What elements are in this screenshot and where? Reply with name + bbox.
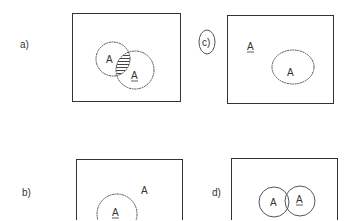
diagram-b: b) A A [22, 160, 183, 221]
set-a-complement-label: A [247, 41, 254, 52]
universal-set-box [232, 159, 338, 221]
diagram-d: d) A A [212, 159, 338, 221]
set-a-label: A [141, 185, 148, 196]
set-a-label: A [287, 67, 294, 78]
set-a-label: A [106, 54, 113, 65]
diagram-c-label: c) [202, 37, 210, 48]
universal-set-box [77, 160, 183, 221]
venn-diagram-canvas: a) A A c) A A b) A A d) A A [0, 0, 353, 220]
diagram-c: c) A A [199, 16, 334, 104]
diagram-a: a) A A [20, 14, 181, 102]
diagram-a-label: a) [20, 39, 29, 50]
set-a-label: A [270, 197, 277, 208]
universal-set-box [228, 16, 334, 104]
diagram-d-label: d) [212, 187, 221, 198]
set-a-complement-label: A [296, 194, 303, 205]
set-a-complement-label: A [112, 207, 119, 218]
set-a-complement-label: A [131, 70, 138, 81]
diagram-b-label: b) [22, 187, 31, 198]
